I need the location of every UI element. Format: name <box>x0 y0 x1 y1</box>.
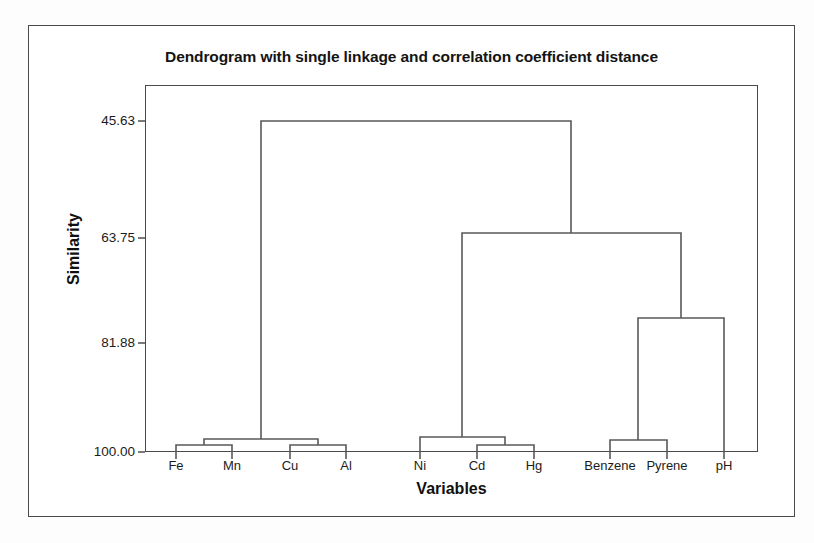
x-tick-label-al: Al <box>316 458 376 473</box>
plot-area <box>145 85 758 452</box>
x-axis-label: Variables <box>145 480 758 498</box>
x-tick-label-hg: Hg <box>504 458 564 473</box>
y-tick-label-3: 100.00 <box>55 444 135 459</box>
y-tick-label-0: 45.63 <box>62 113 135 128</box>
y-tick-label-1: 63.75 <box>62 230 135 245</box>
x-tick-label-ph: pH <box>694 458 754 473</box>
y-axis-label: Similarity <box>65 169 83 329</box>
x-tick-label-ni: Ni <box>390 458 450 473</box>
dendrogram-figure: Dendrogram with single linkage and corre… <box>0 0 814 543</box>
chart-title: Dendrogram with single linkage and corre… <box>28 48 795 66</box>
x-tick-label-fe: Fe <box>146 458 206 473</box>
x-tick-label-cu: Cu <box>260 458 320 473</box>
x-tick-label-mn: Mn <box>202 458 262 473</box>
x-tick-label-cd: Cd <box>447 458 507 473</box>
y-tick-label-2: 81.88 <box>62 335 135 350</box>
